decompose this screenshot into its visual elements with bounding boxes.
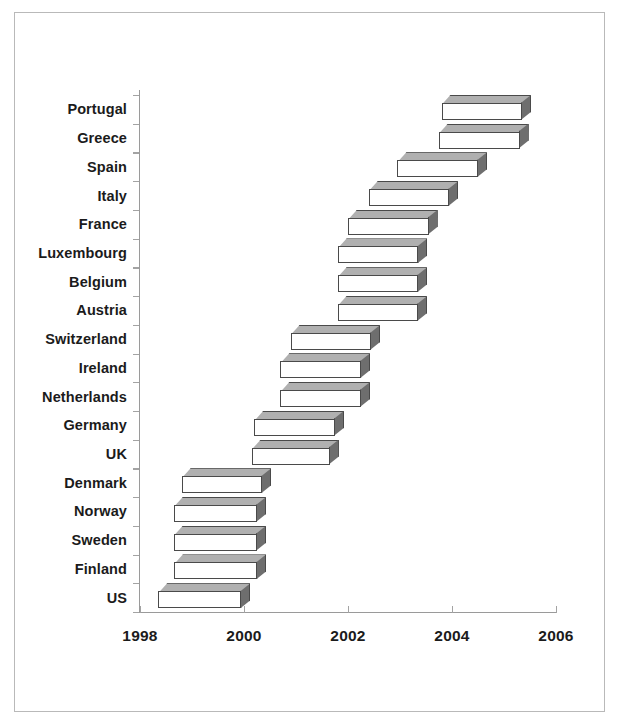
y-axis-label-norway: Norway xyxy=(74,504,127,519)
bar-portugal xyxy=(442,95,532,120)
bar-uk xyxy=(252,440,339,465)
y-axis-label-ireland: Ireland xyxy=(79,361,127,376)
y-axis-tick xyxy=(133,468,139,469)
bar-germany xyxy=(254,411,344,436)
y-axis-tick xyxy=(133,526,139,527)
y-axis-tick xyxy=(133,583,139,584)
bar-switzerland xyxy=(291,325,381,350)
y-axis-tick xyxy=(133,239,139,240)
plot-area: PortugalGreeceSpainItalyFranceLuxembourg… xyxy=(0,0,619,724)
y-axis-label-sweden: Sweden xyxy=(72,533,127,548)
bar-denmark xyxy=(182,468,272,493)
x-axis-tick xyxy=(348,606,349,613)
y-axis-tick xyxy=(133,181,139,182)
x-axis-label-2006: 2006 xyxy=(538,628,573,644)
y-axis-label-france: France xyxy=(79,217,127,232)
bar-us xyxy=(158,583,250,608)
x-axis-tick xyxy=(452,606,453,613)
bar-front-face xyxy=(174,534,257,551)
y-axis-line xyxy=(139,90,140,613)
bar-front-face xyxy=(158,591,241,608)
x-axis-label-2000: 2000 xyxy=(226,628,261,644)
bar-ireland xyxy=(280,353,370,378)
y-axis-tick xyxy=(133,124,139,125)
bar-front-face xyxy=(397,160,478,177)
bar-france xyxy=(348,210,438,235)
x-axis-label-2002: 2002 xyxy=(330,628,365,644)
bar-front-face xyxy=(182,476,263,493)
bar-luxembourg xyxy=(338,238,428,263)
y-axis-label-germany: Germany xyxy=(63,418,127,433)
y-axis-tick xyxy=(133,440,139,441)
y-axis-tick xyxy=(133,411,139,412)
y-axis-tick xyxy=(133,497,139,498)
y-axis-tick xyxy=(133,296,139,297)
y-axis-label-us: US xyxy=(107,590,127,605)
x-axis-tick xyxy=(556,606,557,613)
y-axis-label-netherlands: Netherlands xyxy=(42,389,127,404)
bar-front-face xyxy=(338,304,419,321)
y-axis-tick xyxy=(133,95,139,96)
bar-italy xyxy=(369,181,459,206)
y-axis-label-denmark: Denmark xyxy=(64,476,127,491)
bar-front-face xyxy=(338,246,419,263)
bar-belgium xyxy=(338,267,428,292)
bar-front-face xyxy=(439,132,520,149)
bar-front-face xyxy=(254,419,335,436)
y-axis-label-greece: Greece xyxy=(77,131,127,146)
bar-front-face xyxy=(369,189,450,206)
y-axis-tick xyxy=(133,267,139,268)
chart-figure: PortugalGreeceSpainItalyFranceLuxembourg… xyxy=(0,0,619,724)
bar-front-face xyxy=(280,390,361,407)
y-axis-label-austria: Austria xyxy=(76,303,127,318)
y-axis-tick xyxy=(133,152,139,153)
y-axis-tick xyxy=(133,354,139,355)
bar-front-face xyxy=(442,103,523,120)
y-axis-label-finland: Finland xyxy=(75,562,127,577)
bar-spain xyxy=(397,152,487,177)
bar-front-face xyxy=(252,448,330,465)
y-axis-tick xyxy=(133,555,139,556)
x-axis-label-1998: 1998 xyxy=(122,628,157,644)
x-axis-tick xyxy=(140,606,141,613)
y-axis-label-uk: UK xyxy=(106,447,127,462)
bar-front-face xyxy=(174,562,257,579)
y-axis-label-belgium: Belgium xyxy=(69,274,127,289)
y-axis-label-switzerland: Switzerland xyxy=(45,332,127,347)
bar-netherlands xyxy=(280,382,370,407)
x-axis-label-2004: 2004 xyxy=(434,628,469,644)
bar-greece xyxy=(439,124,529,149)
bar-austria xyxy=(338,296,428,321)
bar-front-face xyxy=(280,361,361,378)
bar-front-face xyxy=(338,275,419,292)
bar-front-face xyxy=(291,333,372,350)
y-axis-tick xyxy=(133,210,139,211)
bar-norway xyxy=(174,497,266,522)
y-axis-label-spain: Spain xyxy=(87,160,127,175)
y-axis-label-portugal: Portugal xyxy=(67,102,127,117)
y-axis-tick xyxy=(133,382,139,383)
y-axis-label-luxembourg: Luxembourg xyxy=(38,246,127,261)
bar-sweden xyxy=(174,526,266,551)
y-axis-tick xyxy=(133,325,139,326)
y-axis-label-italy: Italy xyxy=(97,188,127,203)
bar-finland xyxy=(174,554,266,579)
bar-front-face xyxy=(348,218,429,235)
y-axis-tick xyxy=(133,612,139,613)
bar-front-face xyxy=(174,505,257,522)
